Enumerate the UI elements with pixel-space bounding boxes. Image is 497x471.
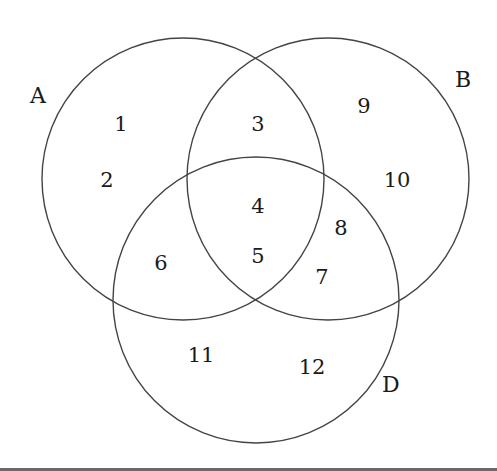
region-value: 11 bbox=[188, 343, 215, 367]
set-circles bbox=[42, 38, 469, 443]
region-value: 6 bbox=[154, 251, 167, 275]
region-value: 5 bbox=[251, 244, 264, 268]
region-value: 3 bbox=[251, 112, 264, 136]
region-value: 4 bbox=[251, 194, 264, 218]
region-value: 2 bbox=[100, 168, 113, 192]
region-value: 8 bbox=[334, 216, 347, 240]
region-value: 9 bbox=[357, 94, 370, 118]
set-label-a: A bbox=[29, 83, 47, 108]
venn-diagram: A B D 1 2 3 4 5 6 7 8 9 10 11 12 bbox=[0, 0, 497, 471]
circle-a bbox=[42, 38, 324, 320]
set-label-b: B bbox=[455, 67, 471, 92]
region-value: 7 bbox=[315, 265, 328, 289]
region-value: 1 bbox=[114, 112, 127, 136]
region-values: 1 2 3 4 5 6 7 8 9 10 11 12 bbox=[100, 94, 410, 379]
region-value: 10 bbox=[384, 168, 411, 192]
set-labels: A B D bbox=[29, 67, 471, 397]
set-label-d: D bbox=[382, 372, 400, 397]
region-value: 12 bbox=[299, 355, 326, 379]
